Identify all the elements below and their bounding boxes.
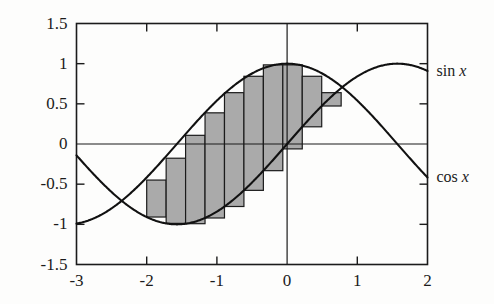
y-tick-label: 1.5: [46, 15, 67, 32]
y-tick-label: 0.5: [46, 95, 67, 112]
y-tick-label: -1: [53, 215, 67, 232]
variable-x: x: [462, 168, 469, 185]
riemann-rectangle: [205, 113, 224, 218]
cos-curve-label: cos x: [437, 169, 469, 185]
y-tick-label: -1.5: [41, 256, 68, 273]
x-tick-label: -1: [197, 272, 237, 289]
sin-label-text: sin: [437, 62, 456, 79]
x-tick-label: 0: [267, 272, 307, 289]
riemann-rectangle: [147, 180, 166, 217]
riemann-rectangle: [166, 158, 185, 223]
x-tick-label: 2: [408, 272, 448, 289]
riemann-rectangle: [224, 93, 243, 207]
chart-canvas: [0, 0, 494, 304]
y-tick-label: -0.5: [41, 175, 68, 192]
x-tick-label: -3: [57, 272, 97, 289]
axes-group: [77, 24, 428, 265]
riemann-rectangle: [302, 76, 321, 127]
cos-label-text: cos: [437, 168, 458, 185]
sin-curve-label: sin x: [437, 63, 467, 79]
variable-x: x: [459, 62, 466, 79]
x-tick-label: 1: [337, 272, 377, 289]
y-tick-label: 1: [59, 55, 68, 72]
riemann-rectangle: [263, 65, 282, 171]
y-tick-label: 0: [59, 135, 68, 152]
figure-container: 1.5 1 0.5 0 -0.5 -1 -1.5 -3 -2 -1 0 1 2 …: [0, 0, 494, 304]
x-tick-label: -2: [127, 272, 167, 289]
riemann-rectangle: [186, 135, 205, 223]
